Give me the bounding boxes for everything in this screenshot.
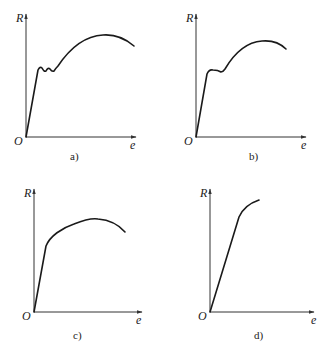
caption: c) [73,329,82,342]
curve-c [34,219,125,312]
x-label: e [311,313,317,327]
panel-b: R O e b) [184,11,307,163]
caption: a) [70,150,79,163]
origin-label: O [14,134,23,148]
stress-strain-figure: R O e a) R O e b) R O e c) R O e d) [0,0,329,349]
panel-d: R O e d) [198,186,317,342]
caption: d) [254,329,264,342]
x-label: e [136,313,142,327]
curve-a [26,35,134,137]
x-label: e [130,138,136,152]
y-label: R [185,11,194,25]
origin-label: O [198,309,207,323]
x-label: e [301,138,307,152]
y-label: R [23,186,32,200]
y-label: R [15,11,24,25]
caption: b) [249,150,259,163]
curve-b [196,41,286,137]
curve-d [210,200,259,312]
origin-label: O [184,134,193,148]
y-label: R [199,186,208,200]
origin-label: O [22,309,31,323]
panel-c: R O e c) [22,186,142,342]
panel-a: R O e a) [14,11,136,163]
